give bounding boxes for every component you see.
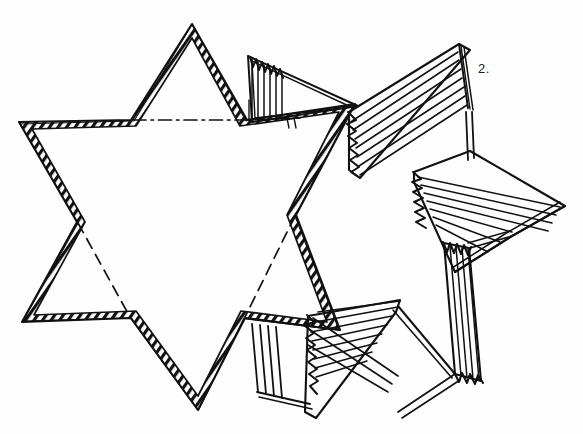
hexagram-folding-illustration xyxy=(0,0,583,434)
figure-number-label: 2. xyxy=(478,62,490,75)
figure-canvas: 2. xyxy=(0,0,583,434)
